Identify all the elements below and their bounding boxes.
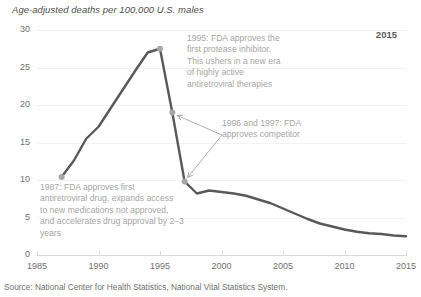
source-note: Source: National Center for Health Stati… xyxy=(4,282,287,292)
annotation-1996-1997-competitor: 1996 and 1997: FDA approves competitor xyxy=(222,118,342,141)
data-point-marker xyxy=(169,110,175,116)
annotation-1987-first-drug: 1987: FDA approves first antiretroviral … xyxy=(40,182,220,239)
annotation-arrow xyxy=(177,116,222,136)
data-point-marker xyxy=(59,174,65,180)
annotation-1995-protease-inhibitor: 1995: FDA approves the first protease in… xyxy=(187,33,312,90)
year-badge: 2015 xyxy=(376,29,397,40)
annotation-arrow xyxy=(188,135,222,178)
data-point-marker xyxy=(157,46,163,52)
